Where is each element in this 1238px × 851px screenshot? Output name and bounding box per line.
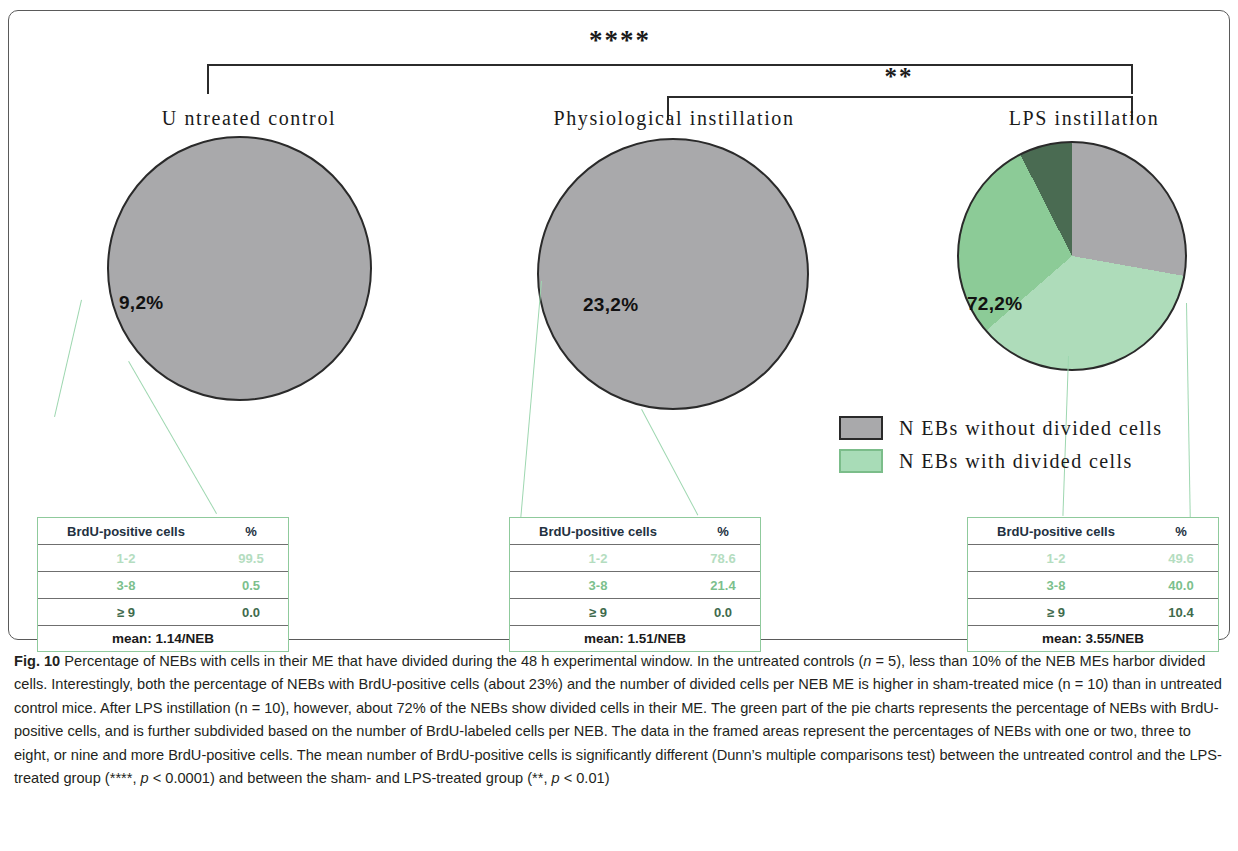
table-cell-value: 21.4 [686,578,760,593]
pie-label-lps-instillation: 72,2% [967,293,1022,315]
bracket-tick-left [207,64,209,94]
table-cell-label: 1-2 [38,551,214,566]
table-row: 3-8 40.0 [968,572,1218,599]
table-row: 1-2 49.6 [968,545,1218,572]
table-cell-label: 1-2 [510,551,686,566]
legend-item-with-divided-cells: N EBs with divided cells [839,449,1162,473]
table-header-row: BrdU-positive cells % [510,518,760,545]
data-table-untreated-control: BrdU-positive cells % 1-2 99.5 3-8 0.5 ≥… [37,517,289,652]
group-title-lps-instillation: LPS instillation [939,107,1229,130]
caption-italic-p-1: p [141,770,149,786]
table-cell-label: 3-8 [510,578,686,593]
table-header-row: BrdU-positive cells % [38,518,288,545]
table-cell-value: 0.0 [214,605,288,620]
table-row: 1-2 78.6 [510,545,760,572]
pie-label-physiological-instillation: 23,2% [583,294,638,316]
table-row: 3-8 0.5 [38,572,288,599]
table-header-percent: % [686,524,760,539]
bracket-bar [667,96,1133,98]
legend: N EBs without divided cells N EBs with d… [839,416,1162,482]
legend-label-without-divided-cells: N EBs without divided cells [899,417,1162,440]
figure-caption: Fig. 10 Percentage of NEBs with cells in… [14,650,1226,790]
table-header-cells: BrdU-positive cells [968,524,1144,539]
table-cell-value: 99.5 [214,551,288,566]
table-cell-label: ≥ 9 [38,605,214,620]
table-mean-row: mean: 1.14/NEB [38,626,288,651]
connector-line-physiological-left [520,281,542,520]
table-mean-text: mean: 1.51/NEB [584,631,686,646]
table-cell-value: 78.6 [686,551,760,566]
table-header-percent: % [1144,524,1218,539]
legend-swatch-green-icon [839,449,883,473]
table-cell-value: 40.0 [1144,578,1218,593]
table-cell-label: 1-2 [968,551,1144,566]
caption-text-4: < 0.01) [560,770,610,786]
table-header-percent: % [214,524,288,539]
table-row: 1-2 99.5 [38,545,288,572]
pie-chart-physiological-instillation [537,138,809,410]
caption-text-2: = 5), less than 10% of the NEB MEs harbo… [14,653,1222,786]
table-cell-value: 0.0 [686,605,760,620]
table-cell-value: 49.6 [1144,551,1218,566]
connector-line-physiological-right [641,409,698,515]
legend-label-with-divided-cells: N EBs with divided cells [899,450,1133,473]
table-row: ≥ 9 10.4 [968,599,1218,626]
table-mean-row: mean: 3.55/NEB [968,626,1218,651]
pie-chart-lps-instillation [957,141,1187,371]
data-table-physiological-instillation: BrdU-positive cells % 1-2 78.6 3-8 21.4 … [509,517,761,652]
pie-chart-untreated-control [107,136,372,401]
table-cell-label: 3-8 [968,578,1144,593]
group-title-untreated-control: U ntreated control [99,107,399,130]
table-mean-text: mean: 3.55/NEB [1042,631,1144,646]
legend-swatch-gray-icon [839,416,883,440]
table-mean-row: mean: 1.51/NEB [510,626,760,651]
table-header-row: BrdU-positive cells % [968,518,1218,545]
table-cell-label: ≥ 9 [968,605,1144,620]
data-table-lps-instillation: BrdU-positive cells % 1-2 49.6 3-8 40.0 … [967,517,1219,652]
figure-panel: **** ** U ntreated control Physiological… [8,10,1230,640]
caption-figure-label: Fig. 10 [14,653,60,669]
significance-stars-mid: ** [664,63,1134,91]
table-header-cells: BrdU-positive cells [510,524,686,539]
table-header-cells: BrdU-positive cells [38,524,214,539]
connector-line-lps-right [1186,303,1191,518]
table-row: ≥ 9 0.0 [510,599,760,626]
table-cell-label: ≥ 9 [510,605,686,620]
table-cell-value: 10.4 [1144,605,1218,620]
group-title-physiological-instillation: Physiological instillation [479,107,869,130]
table-row: 3-8 21.4 [510,572,760,599]
table-row: ≥ 9 0.0 [38,599,288,626]
table-cell-label: 3-8 [38,578,214,593]
caption-italic-p-2: p [552,770,560,786]
table-mean-text: mean: 1.14/NEB [112,631,214,646]
legend-item-without-divided-cells: N EBs without divided cells [839,416,1162,440]
pie-label-untreated-control: 9,2% [119,292,164,314]
significance-stars-top: **** [9,25,1231,56]
table-cell-value: 0.5 [214,578,288,593]
caption-text-3: < 0.0001) and between the sham- and LPS-… [149,770,552,786]
caption-text-1: Percentage of NEBs with cells in their M… [60,653,863,669]
connector-line-untreated-left [54,300,82,417]
